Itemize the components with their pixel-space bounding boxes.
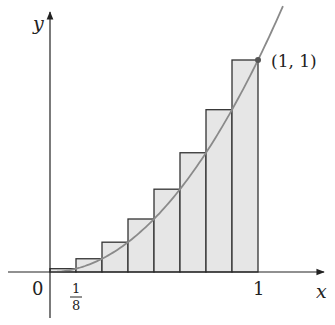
tick-label-one-eighth-num: 1	[72, 281, 80, 296]
riemann-sum-diagram: y x 0 1 8 1 (1, 1)	[0, 0, 335, 325]
riemann-rectangles	[50, 60, 258, 272]
riemann-rectangle	[232, 60, 258, 272]
origin-label: 0	[32, 278, 43, 299]
tick-label-one: 1	[253, 278, 264, 299]
riemann-rectangle	[206, 110, 232, 272]
tick-label-one-eighth-den: 8	[72, 298, 80, 313]
riemann-rectangle	[128, 219, 154, 272]
x-axis-label: x	[316, 280, 327, 302]
point-label: (1, 1)	[271, 51, 317, 71]
y-axis-label: y	[32, 12, 44, 34]
riemann-rectangle	[154, 189, 180, 272]
point-1-1	[255, 57, 261, 63]
